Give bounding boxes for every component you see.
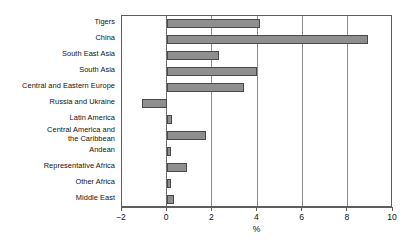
x-tick	[392, 207, 393, 211]
category-label: Representative Africa	[0, 162, 115, 170]
bar	[142, 99, 167, 108]
x-tick-label: 4	[242, 212, 272, 222]
x-tick-label: −2	[106, 212, 136, 222]
x-tick	[121, 207, 122, 211]
bar-row	[122, 16, 391, 32]
bar-row	[122, 160, 391, 176]
bar-row	[122, 176, 391, 192]
category-label: Tigers	[0, 18, 115, 26]
bar	[167, 131, 205, 140]
x-tick	[301, 207, 302, 211]
bar	[167, 115, 172, 124]
category-label: South Asia	[0, 66, 115, 74]
x-tick	[166, 207, 167, 211]
bar-row	[122, 80, 391, 96]
x-tick-label: 10	[377, 212, 406, 222]
bar-row	[122, 112, 391, 128]
category-label: Latin America	[0, 114, 115, 122]
category-label: Andean	[0, 146, 115, 154]
bar	[167, 147, 170, 156]
bar-row	[122, 64, 391, 80]
plot-area	[121, 15, 392, 207]
bar-row	[122, 128, 391, 144]
x-tick-label: 8	[332, 212, 362, 222]
x-tick-label: 2	[196, 212, 226, 222]
category-label: Central America and the Caribbean	[0, 126, 115, 142]
bar	[167, 51, 219, 60]
bar	[167, 19, 260, 28]
bar-row	[122, 32, 391, 48]
bar-row	[122, 48, 391, 64]
bar	[167, 163, 187, 172]
category-axis-labels: TigersChinaSouth East AsiaSouth AsiaCent…	[0, 15, 119, 207]
x-axis-title: %	[237, 224, 277, 234]
x-tick	[256, 207, 257, 211]
x-tick	[211, 207, 212, 211]
category-label: Other Africa	[0, 178, 115, 186]
bar-row	[122, 96, 391, 112]
bar	[167, 67, 257, 76]
category-label: Central and Eastern Europe	[0, 82, 115, 90]
bar-row	[122, 144, 391, 160]
bar	[167, 179, 170, 188]
category-label: South East Asia	[0, 50, 115, 58]
x-tick-label: 6	[287, 212, 317, 222]
category-label: Russia and Ukraine	[0, 98, 115, 106]
category-label: Middle East	[0, 194, 115, 202]
x-tick	[346, 207, 347, 211]
bar	[167, 195, 174, 204]
x-tick-label: 0	[151, 212, 181, 222]
bar-row	[122, 192, 391, 208]
category-label: China	[0, 34, 115, 42]
bar	[167, 83, 244, 92]
bar	[167, 35, 368, 44]
bar-chart: TigersChinaSouth East AsiaSouth AsiaCent…	[0, 0, 406, 248]
